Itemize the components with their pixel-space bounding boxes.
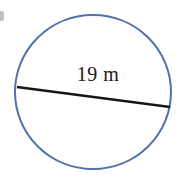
diameter-measurement-label: 19 m [72, 62, 124, 86]
diameter-line [17, 87, 170, 107]
circle-outline [15, 15, 171, 169]
geometry-figure: 19 m [0, 0, 180, 177]
cropped-glyph-fragment [0, 11, 4, 21]
circle-diagram-canvas [0, 0, 180, 177]
